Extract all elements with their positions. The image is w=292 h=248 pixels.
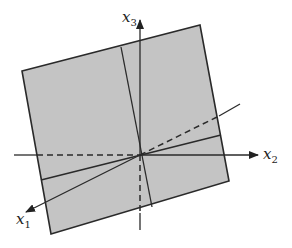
x1-axis-label: x1	[16, 210, 31, 230]
shaded-plane	[22, 25, 229, 234]
x3-axis-label: x3	[122, 8, 137, 28]
x2-axis-label: x2	[263, 145, 278, 165]
x1-axis-negative-solid	[219, 104, 240, 116]
coordinate-plane-diagram: x3 x2 x1	[0, 0, 292, 248]
